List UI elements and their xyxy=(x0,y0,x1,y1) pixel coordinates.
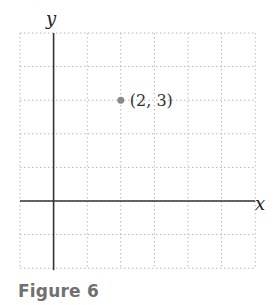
data-point xyxy=(117,97,124,104)
data-points: (2, 3) xyxy=(117,91,173,110)
x-axis-label: x xyxy=(255,193,265,214)
coordinate-plane: (2, 3) x y xyxy=(0,0,276,280)
data-point-label: (2, 3) xyxy=(130,91,173,110)
figure-caption: Figure 6 xyxy=(18,281,99,301)
grid-lines xyxy=(20,33,255,268)
axes xyxy=(20,33,255,270)
y-axis-label: y xyxy=(45,8,57,29)
